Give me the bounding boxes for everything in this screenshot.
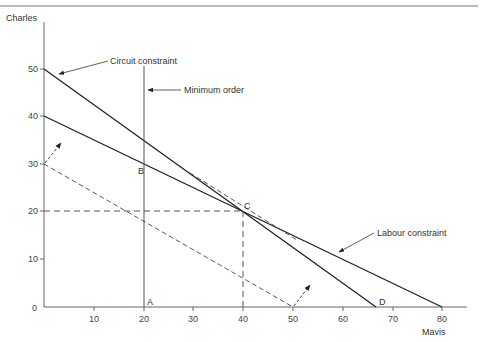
y-tick-labels: 10 20 30 40 50 0 bbox=[28, 64, 38, 313]
svg-text:20: 20 bbox=[28, 206, 38, 216]
axes bbox=[44, 22, 467, 307]
point-a-label: A bbox=[147, 297, 153, 307]
x-tick-labels: 10 20 30 40 50 60 70 80 bbox=[89, 314, 447, 324]
svg-text:10: 10 bbox=[28, 254, 38, 264]
direction-arrow-right bbox=[294, 285, 310, 306]
svg-text:30: 30 bbox=[188, 314, 198, 324]
svg-text:70: 70 bbox=[388, 314, 398, 324]
circuit-annotation-arrow bbox=[59, 61, 108, 74]
svg-text:40: 40 bbox=[238, 314, 248, 324]
circuit-constraint-line bbox=[44, 69, 376, 307]
point-b-label: B bbox=[138, 166, 144, 176]
y-ticks bbox=[40, 69, 44, 259]
direction-arrow-left bbox=[45, 143, 61, 163]
svg-text:30: 30 bbox=[28, 159, 38, 169]
point-c-label: C bbox=[244, 201, 251, 211]
point-d-label: D bbox=[379, 297, 386, 307]
svg-text:10: 10 bbox=[89, 314, 99, 324]
svg-text:50: 50 bbox=[288, 314, 298, 324]
svg-text:20: 20 bbox=[139, 314, 149, 324]
labour-annotation-arrow bbox=[339, 233, 374, 252]
linear-programming-chart: 10 20 30 40 50 0 10 20 30 40 50 60 70 80… bbox=[0, 0, 480, 342]
iso-profit-initial bbox=[44, 164, 293, 307]
x-axis-label: Mavis bbox=[422, 327, 446, 337]
y-axis-label: Charles bbox=[6, 13, 38, 23]
svg-text:40: 40 bbox=[28, 111, 38, 121]
circuit-constraint-label: Circuit constraint bbox=[110, 56, 178, 66]
svg-text:0: 0 bbox=[32, 303, 37, 313]
labour-constraint-label: Labour constraint bbox=[377, 228, 447, 238]
svg-text:60: 60 bbox=[338, 314, 348, 324]
x-ticks bbox=[94, 307, 442, 311]
svg-text:50: 50 bbox=[28, 64, 38, 74]
svg-text:80: 80 bbox=[437, 314, 447, 324]
minimum-order-label: Minimum order bbox=[184, 85, 244, 95]
